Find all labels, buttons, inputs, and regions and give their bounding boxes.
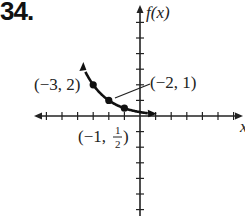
leader-line [115, 84, 150, 98]
point-label-neg2-1: (−2, 1) [150, 73, 196, 92]
point-label-neg3-2: (−3, 2) [34, 75, 80, 94]
half-denominator: 2 [115, 138, 121, 150]
x-axis-label: x [239, 117, 245, 136]
half-numerator: 1 [115, 124, 121, 136]
y-axis-label: f(x) [146, 3, 170, 22]
function-graph: f(x) x (−3, 2) (−2, 1) (−1, 1 2 ) [0, 0, 245, 216]
point-label-close-paren: ) [123, 127, 129, 146]
point-label-neg1-half: (−1, [78, 127, 106, 146]
data-points [90, 81, 128, 112]
exponential-curve [79, 62, 156, 117]
axes [34, 5, 243, 216]
